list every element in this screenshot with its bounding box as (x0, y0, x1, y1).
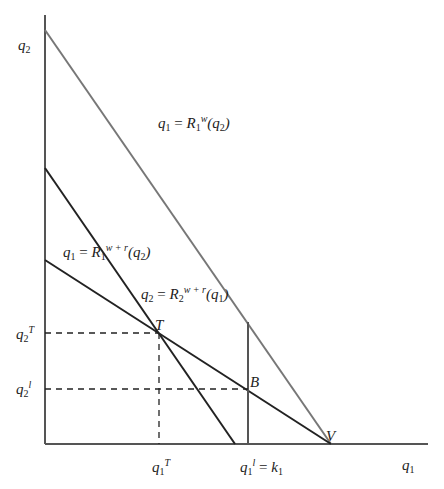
x-axis-label: q1 (402, 458, 415, 475)
r1wr-fn-sup: w + r (106, 242, 128, 253)
x-tick-k-var: k (271, 459, 278, 475)
y-tick-q2l-base: q (16, 381, 24, 397)
x-tick-q1T: q1T (152, 458, 170, 477)
y-axis-label-sub: 2 (26, 44, 31, 55)
r1w-eq: = (171, 115, 187, 131)
y-tick-q2T-sup: T (29, 324, 35, 335)
y-tick-q2T: q2T (16, 325, 34, 344)
r1wr-lhs: q (63, 244, 71, 260)
curve-r1-w (45, 30, 331, 444)
r1wr-arg: (q (128, 244, 141, 260)
r2wr-fn-sup: w + r (184, 284, 206, 295)
y-tick-q2l-sup: l (29, 379, 32, 390)
x-tick-q1T-base: q (152, 459, 160, 475)
r2wr-lhs: q (141, 286, 149, 302)
r1w-lhs: q (158, 115, 166, 131)
r1wr-close: ) (145, 244, 150, 260)
x-tick-q1T-sup: T (165, 457, 171, 468)
y-axis-label: q2 (18, 38, 31, 55)
r2wr-close: ) (223, 286, 228, 302)
point-b-label: B (250, 375, 259, 390)
label-r1-wr: q1 = R1w + r(q2) (63, 243, 150, 262)
x-tick-k1-rhs: = k (255, 459, 278, 475)
r1wr-eq: = (76, 244, 92, 260)
x-axis-label-sub: 1 (410, 464, 415, 475)
r1w-arg: (q (207, 115, 220, 131)
x-axis-label-base: q (402, 457, 410, 473)
x-tick-q1l-k1: q1l = k1 (240, 458, 283, 477)
r2wr-fn: R (169, 286, 178, 302)
r2wr-eq: = (154, 286, 170, 302)
r1wr-fn: R (91, 244, 100, 260)
label-r1-w: q1 = R1w(q2) (158, 114, 230, 133)
label-r2-wr: q2 = R2w + r(q1) (141, 285, 228, 304)
point-v-label: V (326, 429, 335, 444)
curve-r1-wr (45, 168, 235, 444)
x-tick-q1l-base: q (240, 459, 248, 475)
r1w-fn: R (186, 115, 195, 131)
y-tick-q2l: q2l (16, 380, 31, 399)
x-tick-k1-sub: 1 (278, 466, 283, 477)
y-tick-q2T-base: q (16, 326, 24, 342)
point-t-label: T (155, 318, 163, 333)
r2wr-arg: (q (206, 286, 219, 302)
y-axis-label-base: q (18, 37, 26, 53)
r1w-close: ) (225, 115, 230, 131)
